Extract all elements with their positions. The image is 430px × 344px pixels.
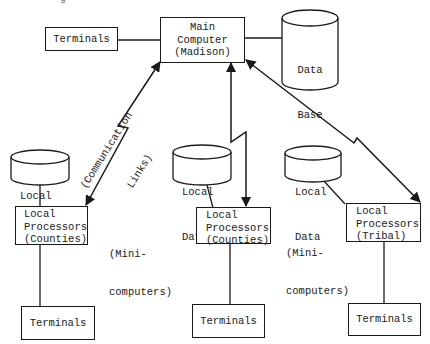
terminals-right-box: Terminals — [348, 303, 421, 336]
minicomputers-label-2: (Mini- computers) — [286, 222, 349, 310]
comm-link-middle — [231, 63, 246, 206]
processor-right-box: Local Processors (Tribal) — [346, 203, 421, 242]
processor-right-line-1: Local — [356, 205, 420, 218]
processor-left-line-1: Local — [24, 208, 87, 221]
database-label: Data Base — [282, 33, 338, 138]
local-data-right-line-1: Local — [295, 185, 341, 200]
processor-right-line-2: Processors — [356, 218, 420, 231]
minicomputers-1-line-1: (Mini- — [109, 248, 172, 261]
main-computer-box: Main Computer (Madison) — [160, 17, 245, 63]
terminals-middle-label: Terminals — [193, 315, 264, 328]
main-computer-line-2: Computer — [161, 34, 244, 47]
main-computer-line-3: (Madison) — [161, 46, 244, 59]
terminals-right-label: Terminals — [349, 313, 420, 326]
database-line-1: Data — [282, 63, 338, 78]
minicomputers-1-line-2: computers) — [109, 286, 172, 299]
terminals-middle-box: Terminals — [192, 304, 265, 338]
minicomputers-2-line-2: computers) — [286, 285, 349, 298]
terminals-left-box: Terminals — [21, 306, 95, 340]
local-data-left-line-1: Local — [20, 189, 66, 204]
processor-left-box: Local Processors (Counties) — [15, 206, 88, 245]
processor-middle-box: Local Processors (Counties) — [196, 207, 271, 244]
database-line-2: Base — [282, 108, 338, 123]
processor-middle-line-2: Processors — [206, 222, 270, 235]
processor-left-line-2: Processors — [24, 221, 87, 234]
processor-right-line-3: (Tribal) — [356, 230, 420, 243]
processor-middle-line-3: (Counties) — [206, 234, 270, 247]
top-terminals-label: Terminals — [46, 33, 117, 46]
minicomputers-label-1: (Mini- computers) — [109, 223, 172, 311]
minicomputers-2-line-1: (Mini- — [286, 247, 349, 260]
main-computer-line-1: Main — [161, 21, 244, 34]
terminals-left-label: Terminals — [22, 317, 94, 330]
processor-left-line-3: (Counties) — [24, 233, 87, 246]
local-data-middle-line-1: Local — [182, 185, 228, 200]
top-terminals-box: Terminals — [45, 27, 118, 51]
processor-middle-line-1: Local — [206, 209, 270, 222]
